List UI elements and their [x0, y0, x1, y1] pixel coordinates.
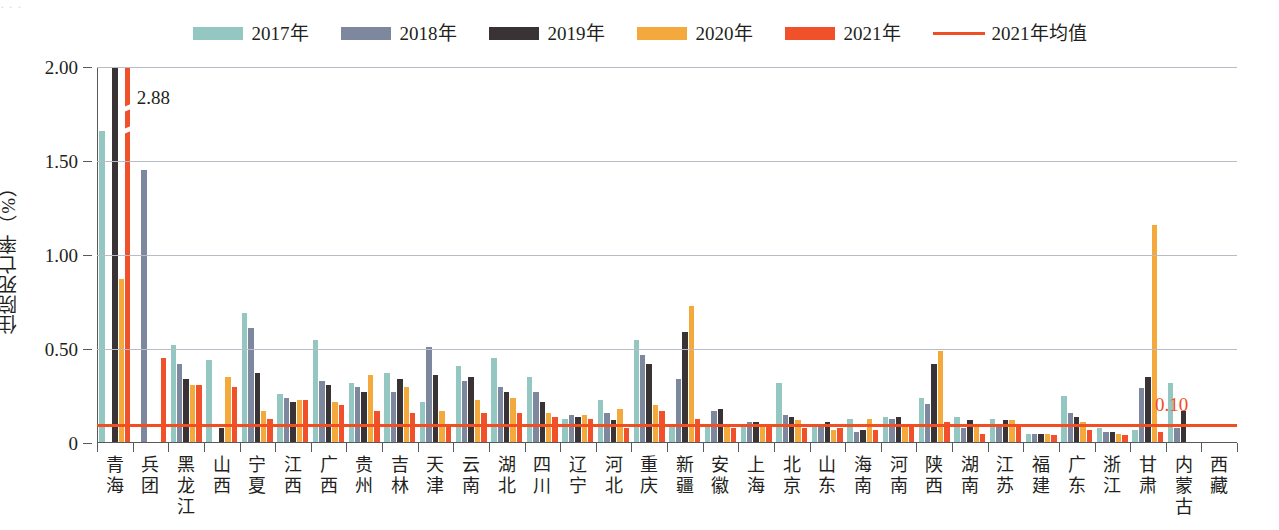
bar[interactable]	[540, 402, 545, 443]
bar[interactable]	[604, 413, 609, 443]
bar[interactable]	[1139, 388, 1144, 443]
bar[interactable]	[277, 394, 282, 443]
bar[interactable]	[206, 360, 211, 443]
bar[interactable]	[491, 358, 496, 443]
bar[interactable]	[433, 375, 438, 443]
bar[interactable]	[867, 419, 872, 443]
legend-2020[interactable]: 2020年	[637, 24, 753, 43]
legend-2017[interactable]: 2017年	[193, 24, 309, 43]
bar[interactable]	[297, 400, 302, 443]
bar[interactable]	[481, 413, 486, 443]
bar[interactable]	[468, 377, 473, 443]
legend-mean-2021[interactable]: 2021年均值	[933, 24, 1087, 43]
bar[interactable]	[290, 402, 295, 443]
bar[interactable]	[196, 385, 201, 443]
bar[interactable]	[961, 428, 966, 443]
legend-2018[interactable]: 2018年	[341, 24, 457, 43]
bar[interactable]	[141, 170, 146, 443]
bar[interactable]	[646, 364, 651, 443]
bar[interactable]	[99, 131, 104, 443]
bar[interactable]	[183, 379, 188, 443]
bar[interactable]	[462, 381, 467, 443]
legend-2019[interactable]: 2019年	[489, 24, 605, 43]
bar[interactable]	[569, 415, 574, 443]
bar[interactable]	[517, 413, 522, 443]
bar[interactable]	[676, 379, 681, 443]
bar[interactable]	[1068, 413, 1073, 443]
bar[interactable]	[368, 375, 373, 443]
bar[interactable]	[938, 351, 943, 443]
bar[interactable]	[889, 419, 894, 443]
bar[interactable]	[783, 415, 788, 443]
bar[interactable]	[789, 417, 794, 443]
bar[interactable]	[741, 426, 746, 443]
bar[interactable]	[883, 417, 888, 443]
bar[interactable]	[1174, 428, 1179, 443]
bar[interactable]	[731, 428, 736, 443]
bar[interactable]	[313, 340, 318, 443]
bar[interactable]	[255, 373, 260, 443]
bar[interactable]	[177, 364, 182, 443]
bar[interactable]	[303, 400, 308, 443]
bar[interactable]	[426, 347, 431, 443]
bar[interactable]	[225, 377, 230, 443]
bar[interactable]	[990, 419, 995, 443]
bar[interactable]	[391, 392, 396, 443]
bar[interactable]	[410, 413, 415, 443]
bar[interactable]	[954, 417, 959, 443]
bar[interactable]	[1061, 396, 1066, 443]
bar[interactable]	[766, 426, 771, 443]
bar[interactable]	[446, 426, 451, 443]
bar[interactable]	[546, 413, 551, 443]
bar[interactable]	[498, 387, 503, 443]
bar[interactable]	[119, 279, 124, 443]
bar[interactable]	[284, 398, 289, 443]
bar[interactable]	[326, 385, 331, 443]
bar[interactable]	[510, 398, 515, 443]
bar[interactable]	[562, 419, 567, 443]
bar[interactable]	[232, 387, 237, 443]
bar[interactable]	[1097, 428, 1102, 443]
bar[interactable]	[404, 387, 409, 443]
legend-2021[interactable]: 2021年	[785, 24, 901, 43]
bar[interactable]	[640, 355, 645, 443]
bar[interactable]	[689, 306, 694, 443]
bar[interactable]	[582, 415, 587, 443]
bar[interactable]	[397, 379, 402, 443]
bar[interactable]	[420, 402, 425, 443]
bar[interactable]	[456, 366, 461, 443]
bar[interactable]	[504, 392, 509, 443]
bar[interactable]	[896, 417, 901, 443]
bar[interactable]	[931, 364, 936, 443]
bar[interactable]	[171, 345, 176, 443]
bar[interactable]	[527, 377, 532, 443]
bar[interactable]	[776, 383, 781, 443]
bar[interactable]	[361, 392, 366, 443]
bar[interactable]	[695, 419, 700, 443]
bar[interactable]	[837, 428, 842, 443]
bar[interactable]	[634, 340, 639, 443]
bar[interactable]	[219, 428, 224, 443]
bar[interactable]	[1145, 377, 1150, 443]
bar[interactable]	[575, 417, 580, 443]
bar[interactable]	[760, 426, 765, 443]
bar[interactable]	[919, 398, 924, 443]
bar[interactable]	[190, 385, 195, 443]
bar[interactable]	[355, 387, 360, 443]
bar[interactable]	[669, 426, 674, 443]
bar[interactable]	[475, 400, 480, 443]
bar[interactable]	[349, 383, 354, 443]
bar[interactable]	[319, 381, 324, 443]
bar[interactable]	[624, 428, 629, 443]
bar[interactable]	[1074, 417, 1079, 443]
bar[interactable]	[588, 419, 593, 443]
bar[interactable]	[847, 419, 852, 443]
bar[interactable]	[384, 373, 389, 443]
bar[interactable]	[332, 402, 337, 443]
bar[interactable]	[802, 428, 807, 443]
bar[interactable]	[974, 426, 979, 443]
bar[interactable]	[161, 358, 166, 443]
bar[interactable]	[552, 417, 557, 443]
bar[interactable]	[598, 400, 603, 443]
bar[interactable]	[996, 426, 1001, 443]
